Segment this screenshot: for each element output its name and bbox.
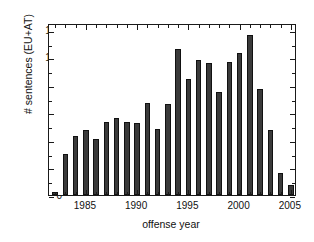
y-tick-20 — [49, 169, 54, 170]
plot-area — [48, 24, 296, 196]
x-minor-tick-1988 — [117, 192, 118, 195]
x-tick-top-2001 — [250, 25, 251, 28]
y-tick-right-40 — [290, 142, 295, 143]
y-axis-label: # sentences (EU+AT) — [22, 0, 34, 144]
bar-2002 — [257, 89, 262, 195]
y-tick-60 — [49, 114, 54, 115]
y-minor-tick-50 — [49, 128, 52, 129]
x-minor-tick-2004 — [281, 192, 282, 195]
bar-2001 — [247, 35, 252, 195]
y-minor-tick-right-50 — [292, 128, 295, 129]
x-tick-top-1997 — [209, 25, 210, 28]
x-minor-tick-1993 — [168, 192, 169, 195]
bar-1990 — [134, 123, 139, 195]
bar-1983 — [63, 154, 68, 195]
bar-1992 — [155, 129, 160, 195]
x-minor-tick-1983 — [65, 192, 66, 195]
x-tick-top-1993 — [168, 25, 169, 28]
x-minor-tick-2003 — [270, 192, 271, 195]
x-tick-1985 — [86, 190, 87, 195]
x-tick-top-1996 — [199, 25, 200, 28]
x-tick-top-2004 — [281, 25, 282, 28]
bar-1999 — [227, 62, 232, 195]
x-tick-top-2005 — [291, 25, 292, 30]
x-tick-top-1983 — [65, 25, 66, 28]
y-tick-0 — [49, 197, 54, 198]
bar-1991 — [145, 103, 150, 195]
x-tick-top-1989 — [127, 25, 128, 28]
x-minor-tick-1994 — [178, 192, 179, 195]
y-minor-tick-right-10 — [292, 183, 295, 184]
y-tick-100 — [49, 59, 54, 60]
bar-series — [49, 25, 295, 195]
bar-2000 — [237, 53, 242, 195]
x-tick-top-1998 — [219, 25, 220, 28]
y-tick-right-80 — [290, 87, 295, 88]
bar-1997 — [206, 63, 211, 195]
y-minor-tick-10 — [49, 183, 52, 184]
y-tick-80 — [49, 87, 54, 88]
x-tick-top-1999 — [229, 25, 230, 28]
x-minor-tick-1997 — [209, 192, 210, 195]
x-tick-top-1985 — [86, 25, 87, 30]
bar-1986 — [93, 139, 98, 195]
x-minor-tick-1999 — [229, 192, 230, 195]
bar-1988 — [114, 118, 119, 195]
x-minor-tick-1987 — [106, 192, 107, 195]
x-minor-tick-1982 — [55, 192, 56, 195]
x-axis-label: offense year — [46, 218, 296, 230]
y-minor-tick-70 — [49, 101, 52, 102]
y-tick-40 — [49, 142, 54, 143]
x-tick-label-1995: 1995 — [162, 201, 212, 211]
y-tick-right-100 — [290, 59, 295, 60]
y-tick-right-120 — [290, 32, 295, 33]
y-tick-right-0 — [290, 197, 295, 198]
bar-1995 — [186, 79, 191, 195]
y-minor-tick-right-30 — [292, 156, 295, 157]
y-minor-tick-right-90 — [292, 73, 295, 74]
x-tick-top-1994 — [178, 25, 179, 28]
x-minor-tick-1992 — [158, 192, 159, 195]
x-minor-tick-2002 — [260, 192, 261, 195]
x-tick-top-1990 — [137, 25, 138, 30]
x-tick-1990 — [137, 190, 138, 195]
x-tick-top-1992 — [158, 25, 159, 28]
x-tick-top-2002 — [260, 25, 261, 28]
bar-1985 — [83, 130, 88, 195]
x-tick-top-1991 — [147, 25, 148, 28]
x-tick-top-1984 — [76, 25, 77, 28]
y-minor-tick-90 — [49, 73, 52, 74]
x-tick-label-1985: 1985 — [60, 201, 110, 211]
bar-1994 — [175, 49, 180, 195]
bar-1996 — [196, 60, 201, 195]
bar-1987 — [104, 122, 109, 195]
x-tick-1995 — [188, 190, 189, 195]
y-minor-tick-right-110 — [292, 46, 295, 47]
x-tick-top-1987 — [106, 25, 107, 28]
x-minor-tick-1991 — [147, 192, 148, 195]
bar-1998 — [216, 92, 221, 195]
x-tick-top-2003 — [270, 25, 271, 28]
x-minor-tick-1996 — [199, 192, 200, 195]
x-tick-top-2000 — [240, 25, 241, 30]
x-tick-top-1982 — [55, 25, 56, 28]
x-minor-tick-1986 — [96, 192, 97, 195]
x-tick-top-1988 — [117, 25, 118, 28]
x-tick-2005 — [291, 190, 292, 195]
x-minor-tick-1989 — [127, 192, 128, 195]
x-minor-tick-1998 — [219, 192, 220, 195]
bar-2003 — [268, 130, 273, 195]
x-tick-label-2000: 2000 — [214, 201, 264, 211]
y-minor-tick-110 — [49, 46, 52, 47]
bar-1989 — [124, 122, 129, 195]
y-minor-tick-30 — [49, 156, 52, 157]
x-tick-top-1986 — [96, 25, 97, 28]
x-minor-tick-2001 — [250, 192, 251, 195]
y-tick-120 — [49, 32, 54, 33]
y-tick-right-20 — [290, 169, 295, 170]
x-tick-top-1995 — [188, 25, 189, 30]
chart-figure: # sentences (EU+AT) 020406080100120 1985… — [0, 0, 314, 242]
x-tick-2000 — [240, 190, 241, 195]
x-minor-tick-1984 — [76, 192, 77, 195]
x-tick-label-1990: 1990 — [111, 201, 161, 211]
